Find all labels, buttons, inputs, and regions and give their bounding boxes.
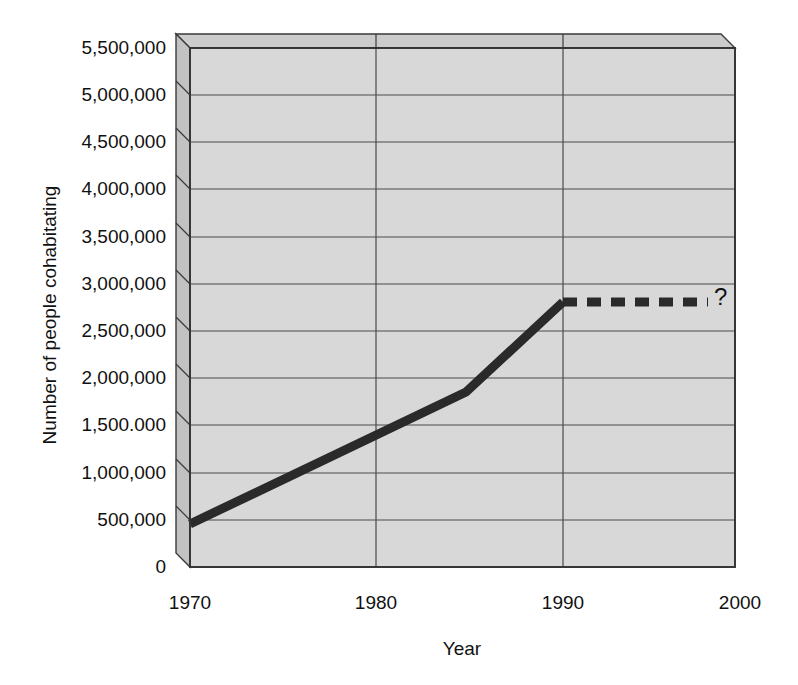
plot-bevel-left bbox=[176, 34, 190, 567]
plot-area bbox=[0, 0, 798, 685]
x-tick-label: 2000 bbox=[719, 592, 761, 614]
x-axis-title: Year bbox=[443, 638, 481, 660]
x-tick-label: 1970 bbox=[169, 592, 211, 614]
projection-question-annotation: ? bbox=[714, 285, 727, 309]
x-tick-label: 1980 bbox=[355, 592, 397, 614]
x-tick-label: 1990 bbox=[542, 592, 584, 614]
chart-container: Number of people cohabitating 5,500,000 … bbox=[0, 0, 798, 685]
plot-bevel-top bbox=[176, 34, 735, 48]
